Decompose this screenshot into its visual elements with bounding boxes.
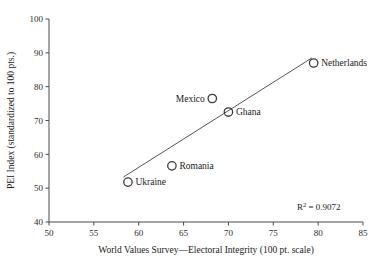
data-point-label: Romania <box>179 161 214 171</box>
data-point-marker <box>309 59 317 67</box>
data-point-label: Ukraine <box>135 177 166 187</box>
x-axis-title: World Values Survey—Electoral Integrity … <box>98 245 314 256</box>
y-tick-label: 80 <box>34 82 44 92</box>
regression-line <box>123 58 311 177</box>
chart-canvas: 4050607080901005055606570758085 UkraineR… <box>0 0 380 268</box>
r2-value: = 0.9072 <box>306 202 340 212</box>
y-axis-title: PEI Index (standardized to 100 pts.) <box>6 52 17 189</box>
x-tick-label: 65 <box>179 228 189 238</box>
y-tick-label: 60 <box>34 150 44 160</box>
data-points <box>124 59 318 186</box>
r-squared-annotation: R2 = 0.9072 <box>297 201 341 213</box>
x-tick-label: 60 <box>134 228 144 238</box>
scatter-plot-figure: 4050607080901005055606570758085 UkraineR… <box>0 0 380 268</box>
trend-line <box>123 58 311 177</box>
y-tick-label: 90 <box>34 48 44 58</box>
y-tick-label: 100 <box>30 14 44 24</box>
y-tick-label: 40 <box>34 217 44 227</box>
data-point-label: Mexico <box>176 94 205 104</box>
data-point-labels: UkraineRomaniaMexicoGhanaNetherlands <box>135 58 367 187</box>
data-point-label: Ghana <box>236 107 262 117</box>
data-point-label: Netherlands <box>321 58 367 68</box>
data-point-marker <box>168 162 176 170</box>
axes <box>49 19 363 222</box>
data-point-marker <box>208 94 216 102</box>
data-point-marker <box>124 178 132 186</box>
y-tick-label: 50 <box>34 183 44 193</box>
chart-annotations: R2 = 0.9072 <box>297 201 341 213</box>
x-tick-label: 70 <box>224 228 234 238</box>
axis-ticks <box>46 19 364 226</box>
x-tick-label: 50 <box>45 228 55 238</box>
x-tick-label: 85 <box>359 228 369 238</box>
x-tick-label: 75 <box>269 228 279 238</box>
x-tick-label: 55 <box>89 228 99 238</box>
y-tick-label: 70 <box>34 116 44 126</box>
x-tick-label: 80 <box>314 228 324 238</box>
